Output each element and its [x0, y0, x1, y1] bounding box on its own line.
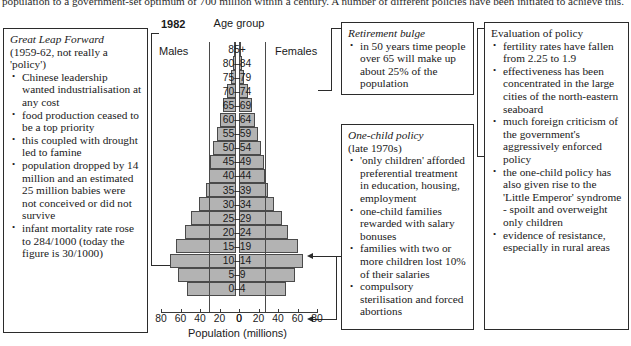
connector-onechild-0-4-vertical — [336, 256, 337, 319]
pyramid-age-label: 20–24 — [213, 226, 261, 239]
pyramid-row: 10–14 — [155, 254, 320, 268]
x-axis-tick-label: 60 — [172, 313, 190, 324]
x-axis-tick-label: 60 — [289, 313, 307, 324]
list-item: evidence of resistance, especially in ru… — [491, 229, 623, 254]
pyramid-age-label: 5–9 — [213, 268, 261, 281]
pyramid-age-label: 80–84 — [213, 57, 261, 70]
pyramid-row: 80–84 — [155, 56, 320, 70]
pyramid-age-label: 30–34 — [213, 198, 261, 211]
pyramid-row: 5–9 — [155, 268, 320, 282]
axis-line-right — [265, 42, 266, 312]
x-axis-title: Population (millions) — [155, 327, 320, 339]
pyramid-age-label: 15–19 — [213, 240, 261, 253]
note-box-retirement-bulge: Retirement bulge in 50 years time people… — [341, 22, 474, 95]
list-item: much foreign criticism of the government… — [491, 115, 623, 165]
x-axis: 806040200020406080 — [155, 312, 320, 324]
pyramid-age-label: 65–69 — [213, 99, 261, 112]
great-leap-bullet-list: Chinese leadership wanted industrialisat… — [10, 71, 142, 260]
pyramid-age-label: 70–74 — [213, 85, 261, 98]
list-item: infant mortality rate rose to 284/1000 (… — [10, 222, 142, 260]
chart-agegroup-label: Age group — [211, 18, 267, 30]
great-leap-title: Great Leap Forward — [10, 33, 142, 46]
x-axis-tick-label: 20 — [211, 313, 229, 324]
list-item: compulsory sterilisation and forced abor… — [348, 280, 468, 318]
pyramid-row: 50–54 — [155, 141, 320, 155]
connector-retirement-vertical — [331, 28, 332, 90]
x-axis-tick-label: 20 — [250, 313, 268, 324]
pyramid-row: 35–39 — [155, 183, 320, 197]
intro-paragraph: population to a government-set optimum o… — [2, 0, 629, 8]
pyramid-row: 55–59 — [155, 127, 320, 141]
pyramid-age-label: 75–79 — [213, 71, 261, 84]
pyramid-row: 65–69 — [155, 98, 320, 112]
note-box-great-leap-forward: Great Leap Forward (1959-62, not really … — [3, 28, 148, 333]
connector-retirement-horizontal — [331, 28, 342, 29]
retirement-bulge-bullet-list: in 50 years time people over 65 will mak… — [348, 40, 468, 90]
pyramid-row: 85+ — [155, 42, 320, 56]
retirement-bulge-title: Retirement bulge — [348, 27, 468, 40]
list-item: one-child families rewarded with salary … — [348, 205, 468, 243]
pyramid-row: 70–74 — [155, 84, 320, 98]
pyramid-age-label: 85+ — [213, 43, 261, 56]
pyramid-row: 30–34 — [155, 197, 320, 211]
evaluation-bullet-list: fertility rates have fallen from 2.25 to… — [491, 40, 623, 254]
one-child-subtitle: (late 1970s) — [348, 142, 468, 155]
evaluation-title: Evaluation of policy — [491, 27, 623, 40]
list-item: Chinese leadership wanted industrialisat… — [10, 71, 142, 109]
axis-line-left — [209, 42, 210, 312]
pyramid-age-label: 25–29 — [213, 212, 261, 225]
pyramid-row: 75–79 — [155, 70, 320, 84]
pyramid-age-label: 55–59 — [213, 127, 261, 140]
pyramid-row: 25–29 — [155, 211, 320, 225]
x-axis-tick-label: 40 — [191, 313, 209, 324]
pyramid-row: 15–19 — [155, 239, 320, 253]
connector-great-leap-vertical — [151, 33, 152, 265]
connector-evaluation-top — [477, 28, 485, 29]
pyramid-age-label: 0–4 — [213, 282, 261, 295]
list-item: effectiveness has been concentrated in t… — [491, 65, 623, 115]
list-item: this coupled with drought led to famine — [10, 134, 142, 159]
chart-year-label: 1982 — [161, 18, 185, 30]
connector-evaluation-vertical — [477, 28, 478, 156]
connector-evaluation-bottom — [477, 156, 485, 157]
pyramid-age-label: 60–64 — [213, 113, 261, 126]
list-item: in 50 years time people over 65 will mak… — [348, 40, 468, 90]
pyramid-row: 20–24 — [155, 225, 320, 239]
list-item: families with two or more children lost … — [348, 242, 468, 280]
one-child-bullet-list: 'only children' afforded preferential tr… — [348, 154, 468, 318]
x-axis-tick-label: 80 — [152, 313, 170, 324]
pyramid-age-label: 35–39 — [213, 184, 261, 197]
pyramid-row: 60–64 — [155, 113, 320, 127]
pyramid-row: 0–4 — [155, 282, 320, 296]
pyramid-age-label: 50–54 — [213, 141, 261, 154]
x-axis-tick-label: 40 — [269, 313, 287, 324]
one-child-title: One-child policy — [348, 129, 468, 142]
pyramid-row: 45–49 — [155, 155, 320, 169]
great-leap-subtitle: (1959-62, not really a 'policy') — [10, 46, 142, 71]
list-item: 'only children' afforded preferential tr… — [348, 154, 468, 204]
population-pyramid-chart: 1982 Age group Males Females 85+80–8475–… — [155, 18, 320, 343]
pyramid-age-label: 10–14 — [213, 254, 261, 267]
pyramid-age-label: 45–49 — [213, 155, 261, 168]
list-item: population dropped by 14 million and an … — [10, 159, 142, 222]
list-item: fertility rates have fallen from 2.25 to… — [491, 40, 623, 65]
pyramid-bars: 85+80–8475–7970–7465–6960–6455–5950–5445… — [155, 42, 320, 312]
x-axis-tick-label: 0 — [230, 313, 248, 324]
note-box-evaluation-of-policy: Evaluation of policy fertility rates hav… — [484, 22, 629, 330]
x-axis-tick-label: 80 — [308, 313, 326, 324]
connector-retirement-lower — [318, 90, 332, 91]
pyramid-age-label: 40–44 — [213, 169, 261, 182]
note-box-one-child-policy: One-child policy (late 1970s) 'only chil… — [341, 124, 474, 330]
list-item: the one-child policy has also given rise… — [491, 166, 623, 229]
list-item: food production ceased to be a top prior… — [10, 109, 142, 134]
pyramid-row: 40–44 — [155, 169, 320, 183]
